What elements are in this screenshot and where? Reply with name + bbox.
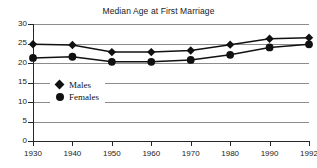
data-point-marker	[226, 40, 234, 48]
data-point-marker	[305, 40, 313, 48]
legend-label-females: Females	[69, 92, 99, 102]
data-point-marker	[226, 51, 234, 59]
data-point-marker	[147, 48, 155, 56]
data-series-layer	[0, 0, 317, 168]
data-point-marker	[266, 44, 274, 52]
legend-label-males: Males	[69, 80, 91, 90]
legend-item-males: Males	[54, 79, 99, 91]
legend-item-females: Females	[54, 91, 99, 103]
data-point-marker	[29, 54, 37, 62]
data-point-marker	[69, 53, 77, 61]
circle-marker-icon	[54, 91, 66, 103]
chart-legend: Males Females	[52, 78, 103, 104]
diamond-marker-icon	[54, 79, 66, 91]
data-point-marker	[108, 48, 116, 56]
data-point-marker	[265, 35, 273, 43]
data-point-marker	[68, 41, 76, 49]
data-point-marker	[187, 56, 195, 64]
data-point-marker	[29, 40, 37, 48]
data-point-marker	[108, 58, 116, 66]
data-point-marker	[187, 46, 195, 54]
chart-container: Median Age at First Marriage 05101520253…	[0, 0, 317, 168]
data-point-marker	[147, 58, 155, 66]
